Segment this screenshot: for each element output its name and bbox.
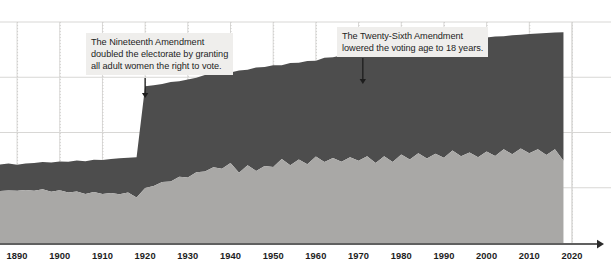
svg-text:1910: 1910 bbox=[92, 251, 113, 261]
svg-text:1930: 1930 bbox=[177, 251, 198, 261]
svg-text:2010: 2010 bbox=[519, 251, 540, 261]
svg-text:1890: 1890 bbox=[7, 251, 28, 261]
annotation-twenty-sixth-amendment: The Twenty-Sixth Amendment lowered the v… bbox=[337, 27, 488, 57]
svg-text:1940: 1940 bbox=[220, 251, 241, 261]
svg-text:1970: 1970 bbox=[348, 251, 369, 261]
svg-text:1920: 1920 bbox=[135, 251, 156, 261]
svg-text:2000: 2000 bbox=[476, 251, 497, 261]
area-series-group bbox=[0, 32, 563, 243]
annotation-nineteenth-amendment: The Nineteenth Amendment doubled the ele… bbox=[86, 33, 233, 75]
svg-text:1990: 1990 bbox=[433, 251, 454, 261]
svg-text:1980: 1980 bbox=[391, 251, 412, 261]
svg-text:1950: 1950 bbox=[263, 251, 284, 261]
svg-text:1900: 1900 bbox=[49, 251, 70, 261]
x-axis-tick-labels: 1890190019101920193019401950196019701980… bbox=[7, 251, 583, 261]
chart-container: 1890190019101920193019401950196019701980… bbox=[0, 0, 611, 275]
svg-text:1960: 1960 bbox=[305, 251, 326, 261]
svg-text:2020: 2020 bbox=[561, 251, 582, 261]
